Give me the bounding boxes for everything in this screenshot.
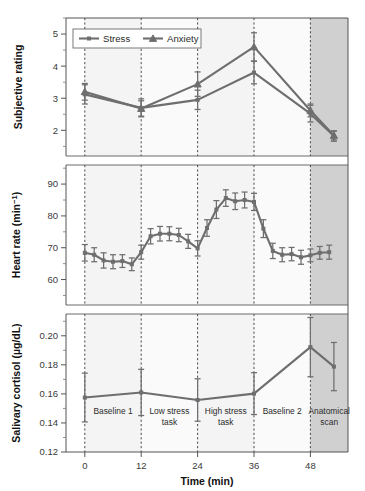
data-point-heart-rate-0-14 xyxy=(215,208,218,211)
phase-band-5 xyxy=(310,165,348,305)
data-point-salivary-cortisol-0-2 xyxy=(196,398,199,401)
data-point-heart-rate-0-0 xyxy=(83,251,86,254)
phase-band-3 xyxy=(198,314,254,452)
legend-label-anxiety: Anxiety xyxy=(167,33,199,44)
data-point-heart-rate-0-2 xyxy=(102,259,105,262)
x-ticklabel-1: 12 xyxy=(136,460,147,471)
data-point-heart-rate-0-24 xyxy=(309,254,312,257)
data-point-heart-rate-0-10 xyxy=(177,234,180,237)
phase-label-2-line2: task xyxy=(162,417,178,427)
y-ticklabel-heart-rate-3: 90 xyxy=(47,178,58,189)
y-ticklabel-subjective-rating-2: 4 xyxy=(53,61,58,72)
data-point-heart-rate-0-9 xyxy=(168,232,171,235)
phase-band-2 xyxy=(141,314,197,452)
y-axis-title-salivary-cortisol: Salivary cortisol (µg/dL) xyxy=(10,323,22,442)
legend-marker-stress xyxy=(88,37,91,40)
x-ticklabel-4: 48 xyxy=(305,460,316,471)
y-ticklabel-subjective-rating-3: 5 xyxy=(53,28,58,39)
data-point-heart-rate-0-8 xyxy=(159,232,162,235)
data-point-salivary-cortisol-0-4 xyxy=(309,346,312,349)
data-point-heart-rate-0-3 xyxy=(112,260,115,263)
data-point-heart-rate-0-6 xyxy=(140,251,143,254)
x-ticklabel-3: 36 xyxy=(249,460,260,471)
data-point-heart-rate-0-20 xyxy=(271,249,274,252)
legend: StressAnxiety xyxy=(73,29,201,48)
phase-band-5 xyxy=(310,314,348,452)
data-point-heart-rate-0-15 xyxy=(224,197,227,200)
data-point-heart-rate-0-17 xyxy=(243,199,246,202)
data-point-heart-rate-0-22 xyxy=(290,253,293,256)
data-point-heart-rate-0-11 xyxy=(187,240,190,243)
data-point-salivary-cortisol-0-5 xyxy=(332,365,335,368)
y-axis-salivary-cortisol: 0.120.140.160.180.20 xyxy=(40,321,67,457)
phase-label-3: High stress xyxy=(205,406,247,416)
data-point-heart-rate-0-18 xyxy=(253,200,256,203)
y-axis-heart-rate: 60708090 xyxy=(47,168,66,295)
y-axis-title-heart-rate: Heart rate (min−1) xyxy=(10,192,22,278)
phase-label-1: Baseline 1 xyxy=(93,406,132,416)
phase-band-1 xyxy=(85,314,141,452)
x-ticklabel-0: 0 xyxy=(82,460,87,471)
x-ticklabel-2: 24 xyxy=(192,460,203,471)
y-ticklabel-salivary-cortisol-0: 0.12 xyxy=(40,446,59,457)
phase-band-4 xyxy=(254,314,310,452)
y-ticklabel-salivary-cortisol-4: 0.20 xyxy=(40,330,59,341)
phase-band-1 xyxy=(85,165,141,305)
data-point-heart-rate-0-1 xyxy=(93,253,96,256)
data-point-heart-rate-0-25 xyxy=(318,251,321,254)
y-ticklabel-heart-rate-1: 70 xyxy=(47,242,58,253)
y-ticklabel-heart-rate-2: 80 xyxy=(47,210,58,221)
y-ticklabel-salivary-cortisol-1: 0.14 xyxy=(40,417,59,428)
data-point-heart-rate-0-12 xyxy=(196,247,199,250)
phase-shading-group xyxy=(85,18,348,452)
figure-container: 2345607080900.120.140.160.180.20Subjecti… xyxy=(0,0,365,491)
multi-panel-physiology-figure: 2345607080900.120.140.160.180.20Subjecti… xyxy=(0,0,365,491)
y-axis-title-subjective-rating: Subjective rating xyxy=(12,45,24,130)
data-point-heart-rate-0-21 xyxy=(281,253,284,256)
phase-band-4 xyxy=(254,165,310,305)
legend-label-stress: Stress xyxy=(103,33,130,44)
y-axis-subjective-rating: 2345 xyxy=(53,18,66,146)
y-ticklabel-subjective-rating-0: 2 xyxy=(53,125,58,136)
data-point-heart-rate-0-23 xyxy=(300,256,303,259)
y-ticklabel-salivary-cortisol-2: 0.16 xyxy=(40,388,59,399)
phase-band-5 xyxy=(310,18,348,156)
phase-label-2: Low stress xyxy=(149,406,189,416)
phase-label-5-line2: scan xyxy=(320,417,338,427)
data-point-heart-rate-0-19 xyxy=(262,227,265,230)
y-ticklabel-subjective-rating-1: 3 xyxy=(53,93,58,104)
x-axis-group: 012243648Time (min) xyxy=(82,452,316,487)
phase-band-4 xyxy=(254,18,310,156)
phase-band-3 xyxy=(198,165,254,305)
data-point-heart-rate-0-5 xyxy=(130,263,133,266)
phase-label-3-line2: task xyxy=(218,417,234,427)
y-ticklabel-salivary-cortisol-3: 0.18 xyxy=(40,359,59,370)
data-point-heart-rate-0-4 xyxy=(121,260,124,263)
data-point-heart-rate-0-7 xyxy=(149,235,152,238)
data-point-salivary-cortisol-0-1 xyxy=(140,391,143,394)
data-point-subjective-rating-0-2 xyxy=(196,98,199,101)
data-point-heart-rate-0-16 xyxy=(234,200,237,203)
phase-label-4: Baseline 2 xyxy=(263,406,302,416)
phase-label-5: Anatomical xyxy=(308,406,350,416)
y-axis-titles: Subjective ratingHeart rate (min−1)Saliv… xyxy=(10,45,24,443)
data-point-heart-rate-0-26 xyxy=(328,251,331,254)
data-point-salivary-cortisol-0-0 xyxy=(83,396,86,399)
data-point-subjective-rating-0-3 xyxy=(253,71,256,74)
x-axis-title: Time (min) xyxy=(181,475,234,487)
data-point-heart-rate-0-13 xyxy=(206,227,209,230)
y-ticklabel-heart-rate-0: 60 xyxy=(47,274,58,285)
data-point-salivary-cortisol-0-3 xyxy=(253,392,256,395)
